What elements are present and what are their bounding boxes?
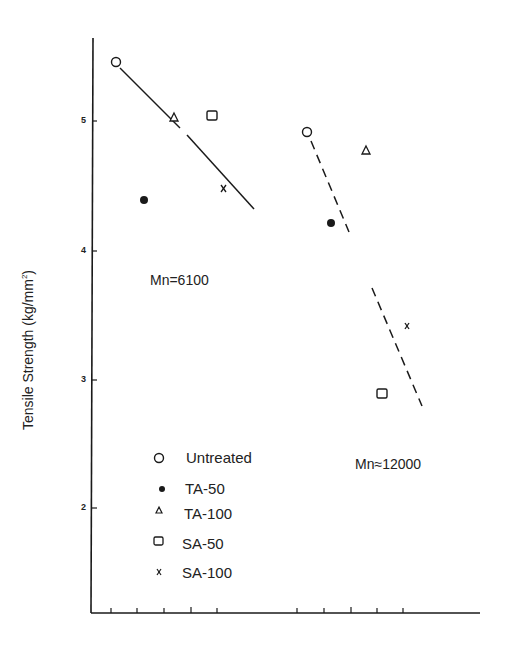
x-ticks bbox=[111, 607, 403, 613]
legend-label-ta50: TA-50 bbox=[185, 480, 225, 497]
legend-sa100-icon bbox=[157, 569, 161, 575]
legend-ta50-icon bbox=[159, 486, 165, 492]
legend-untreated-icon bbox=[155, 454, 164, 463]
legend-markers bbox=[154, 454, 165, 576]
legend-label-sa100: SA-100 bbox=[182, 564, 232, 581]
point-ta50-mn12000 bbox=[327, 219, 335, 227]
y-axis bbox=[91, 38, 93, 613]
point-ta50-mn6100 bbox=[140, 196, 148, 204]
trend-line-mn6100 bbox=[120, 68, 254, 209]
y-tick-label-5: 5 bbox=[81, 115, 86, 125]
y-axis-label: Tensile Strength (kg/mm2) bbox=[20, 270, 36, 430]
annotation-mn12000: Mn≈12000 bbox=[355, 456, 421, 472]
point-sa50-mn12000 bbox=[377, 389, 387, 398]
point-sa100-mn6100 bbox=[221, 185, 226, 192]
legend-label-ta100: TA-100 bbox=[184, 505, 232, 522]
y-tick-label-3: 3 bbox=[81, 374, 86, 384]
chart-canvas bbox=[0, 0, 510, 651]
point-sa50-mn6100 bbox=[207, 111, 217, 120]
point-sa100-mn12000 bbox=[405, 323, 409, 329]
point-ta100-mn6100 bbox=[170, 113, 178, 121]
trend-line-mn12000 bbox=[311, 141, 422, 406]
legend-label-sa50: SA-50 bbox=[182, 535, 224, 552]
point-untreated-mn12000 bbox=[303, 128, 312, 137]
y-tick-label-4: 4 bbox=[81, 245, 86, 255]
point-untreated-mn6100 bbox=[112, 58, 121, 67]
legend-label-untreated: Untreated bbox=[186, 449, 252, 466]
legend-sa50-icon bbox=[154, 537, 163, 545]
point-ta100-mn12000 bbox=[362, 146, 370, 154]
y-tick-label-2: 2 bbox=[81, 502, 86, 512]
annotation-mn6100: Mn=6100 bbox=[150, 272, 209, 288]
legend-ta100-icon bbox=[156, 507, 162, 513]
